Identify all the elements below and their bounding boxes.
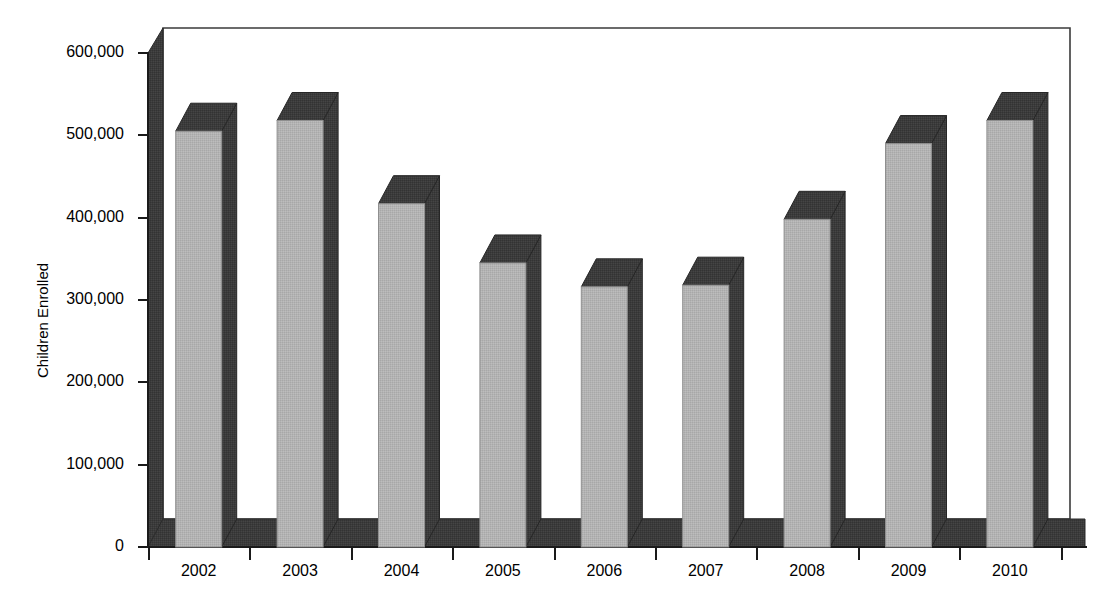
bar-front-face bbox=[987, 121, 1033, 547]
x-tick-mark bbox=[351, 548, 353, 560]
bar-2006 bbox=[581, 259, 642, 547]
x-tick-mark bbox=[858, 548, 860, 560]
x-tick-mark bbox=[249, 548, 251, 560]
bar-front-face bbox=[784, 219, 830, 547]
x-tick-label: 2009 bbox=[859, 562, 959, 580]
x-tick-label: 2006 bbox=[554, 562, 654, 580]
bar-side-face bbox=[222, 103, 237, 547]
y-axis-title: Children Enrolled bbox=[34, 263, 51, 378]
bar-side-face bbox=[932, 116, 947, 547]
y-tick-mark bbox=[138, 464, 149, 466]
bar-front-face bbox=[379, 204, 425, 547]
chart-plot-area bbox=[0, 0, 1097, 608]
x-tick-mark bbox=[756, 548, 758, 560]
x-tick-label: 2008 bbox=[757, 562, 857, 580]
x-tick-mark bbox=[655, 548, 657, 560]
x-tick-label: 2010 bbox=[960, 562, 1060, 580]
y-tick-label: 0 bbox=[42, 538, 124, 554]
plot-left-wall bbox=[148, 28, 163, 547]
y-tick-label: 600,000 bbox=[42, 44, 124, 60]
y-tick-mark bbox=[138, 299, 149, 301]
bar-front-face bbox=[176, 131, 222, 547]
y-tick-label: 400,000 bbox=[42, 209, 124, 225]
y-tick-mark bbox=[138, 381, 149, 383]
bar-side-face bbox=[425, 176, 440, 547]
bar-front-face bbox=[581, 287, 627, 547]
x-tick-label: 2007 bbox=[656, 562, 756, 580]
bar-2007 bbox=[683, 257, 744, 547]
x-tick-mark bbox=[452, 548, 454, 560]
x-tick-label: 2004 bbox=[352, 562, 452, 580]
x-tick-mark bbox=[554, 548, 556, 560]
y-tick-label: 200,000 bbox=[42, 373, 124, 389]
bar-side-face bbox=[526, 235, 541, 547]
bar-2005 bbox=[480, 235, 541, 547]
y-tick-label: 100,000 bbox=[42, 456, 124, 472]
bar-2009 bbox=[886, 116, 947, 547]
x-tick-label: 2002 bbox=[149, 562, 249, 580]
x-tick-mark bbox=[1061, 548, 1063, 560]
y-tick-mark bbox=[138, 52, 149, 54]
x-tick-label: 2005 bbox=[453, 562, 553, 580]
y-tick-label: 300,000 bbox=[42, 291, 124, 307]
bar-2004 bbox=[379, 176, 440, 547]
bar-2010 bbox=[987, 93, 1048, 547]
bar-2002 bbox=[176, 103, 237, 547]
bar-2008 bbox=[784, 191, 845, 547]
bar-side-face bbox=[323, 93, 338, 547]
x-tick-label: 2003 bbox=[250, 562, 350, 580]
bar-side-face bbox=[1033, 93, 1048, 547]
y-tick-mark bbox=[138, 217, 149, 219]
x-tick-mark bbox=[959, 548, 961, 560]
bar-side-face bbox=[627, 259, 642, 547]
y-tick-label: 500,000 bbox=[42, 126, 124, 142]
bar-front-face bbox=[886, 144, 932, 547]
bar-chart: Children Enrolled 0100,000200,000300,000… bbox=[0, 0, 1097, 608]
bar-front-face bbox=[683, 285, 729, 547]
bar-front-face bbox=[480, 263, 526, 547]
bar-front-face bbox=[277, 121, 323, 547]
y-tick-mark bbox=[138, 134, 149, 136]
x-tick-mark bbox=[148, 548, 150, 560]
bar-2003 bbox=[277, 93, 338, 547]
bar-side-face bbox=[729, 257, 744, 547]
bar-side-face bbox=[830, 191, 845, 547]
